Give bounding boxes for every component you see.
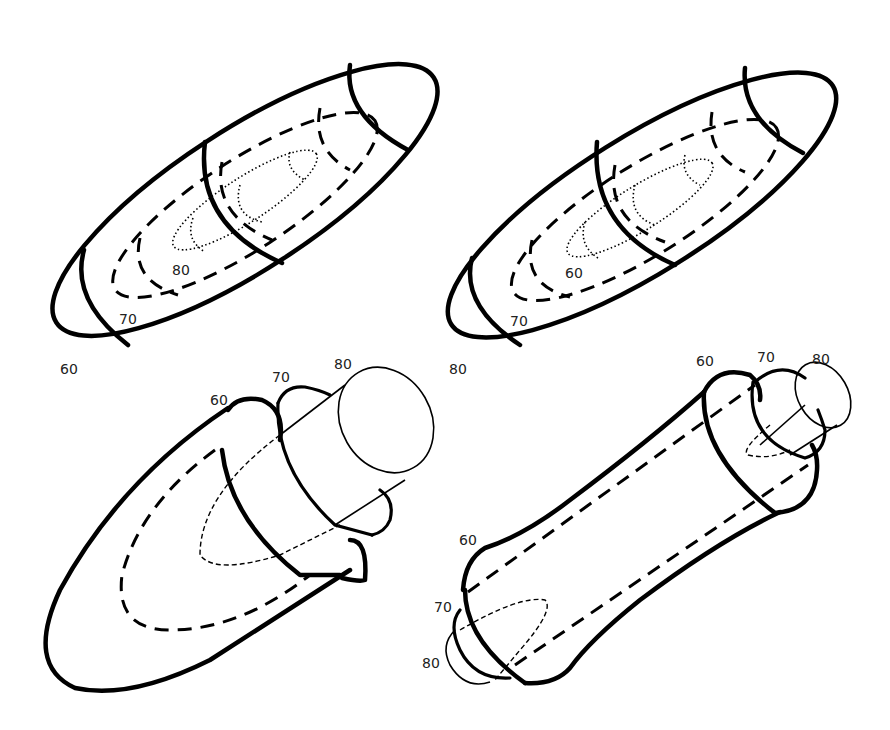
cap-60 (228, 399, 281, 440)
contour-label: 60 (210, 393, 228, 407)
panel-top-left (18, 19, 472, 382)
contour-label: 70 (434, 600, 452, 614)
outer-contour-60 (46, 408, 350, 691)
dotted-arc (238, 185, 262, 222)
cylinder-80-edge (335, 480, 405, 525)
contour-label: 70 (510, 314, 528, 328)
cross-arc (349, 65, 408, 150)
cylinder-70-top (278, 387, 330, 403)
cylinder-bottom-edge (525, 512, 780, 683)
outer-contour-60 (18, 19, 472, 382)
contour-label: 80 (334, 357, 352, 371)
cylinder-70-ring (278, 403, 372, 535)
panel-top-right (415, 28, 869, 382)
panel-bottom-left (46, 350, 453, 691)
contour-label: 60 (60, 362, 78, 376)
dotted-arc (583, 222, 598, 258)
outer-contour-80 (415, 28, 869, 382)
panel-bottom-right (446, 352, 862, 684)
right-inner-dashed (746, 425, 790, 457)
cross-arc (470, 258, 520, 345)
contour-label: 80 (449, 362, 467, 376)
left-cap-80 (446, 630, 490, 684)
contour-label: 70 (757, 350, 775, 364)
contour-label: 80 (422, 656, 440, 670)
contour-label: 80 (172, 263, 190, 277)
contour-label: 70 (119, 312, 137, 326)
cylinder-70-end (372, 490, 391, 535)
dotted-arc (633, 185, 655, 225)
contour-label: 70 (272, 370, 290, 384)
dashed-arc (711, 112, 745, 172)
dotted-arc (684, 155, 700, 185)
cylinder-inner-dashed (515, 465, 808, 665)
right-cylinder-80-edge (760, 405, 805, 445)
contour-label: 60 (696, 354, 714, 368)
cylinder-80-edge (280, 385, 345, 435)
dotted-arc (289, 152, 305, 180)
contour-label: 60 (459, 533, 477, 547)
right-ring-70-top (755, 370, 805, 382)
cylinder-inner-dashed (468, 385, 755, 592)
contour-label: 60 (565, 266, 583, 280)
inner-contour-70 (121, 450, 310, 630)
contour-label: 80 (812, 352, 830, 366)
diagram-canvas (0, 0, 890, 730)
